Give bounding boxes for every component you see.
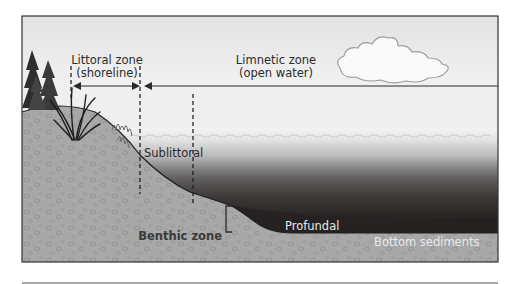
limnetic-label-line2: (open water) (239, 66, 313, 80)
littoral-label-line1: Littoral zone (71, 53, 143, 67)
sublittoral-label: Sublittoral (144, 146, 203, 160)
lake-zones-diagram: Littoral zone (shoreline) Limnetic zone … (0, 0, 520, 284)
profundal-label: Profundal (285, 219, 339, 233)
littoral-label-line2: (shoreline) (76, 66, 138, 80)
benthic-zone-label: Benthic zone (138, 229, 222, 243)
limnetic-label-line1: Limnetic zone (236, 53, 316, 67)
bottom-sediments-label: Bottom sediments (374, 235, 479, 249)
